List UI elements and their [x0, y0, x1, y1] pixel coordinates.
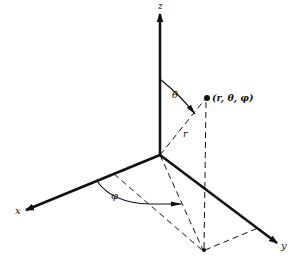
spherical-coordinates-diagram: z x y (r, θ, φ) r θ φ [0, 0, 297, 271]
y-axis [160, 155, 277, 243]
radius-line [160, 98, 206, 155]
projection-foot-marker [202, 248, 206, 252]
phi-label: φ [111, 190, 118, 201]
xy-projection-line [160, 155, 203, 250]
radius-label: r [183, 128, 189, 139]
x-component-line [114, 174, 202, 250]
phi-arc [97, 181, 181, 204]
z-axis-label: z [157, 1, 163, 11]
x-axis-label: x [15, 205, 21, 216]
vertical-projection-line [204, 102, 206, 250]
y-axis-label: y [280, 240, 287, 251]
point-label: (r, θ, φ) [212, 92, 253, 104]
theta-label: θ [172, 89, 178, 100]
point-marker [204, 95, 210, 101]
x-axis [26, 155, 160, 210]
y-component-line [205, 228, 258, 250]
